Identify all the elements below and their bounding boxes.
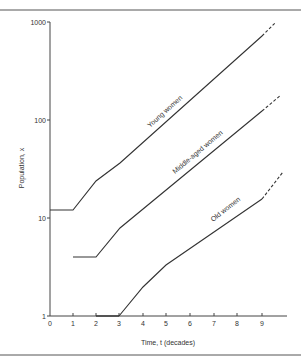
- y-axis-title: Population, x: [18, 147, 26, 188]
- x-tick-3: 3: [117, 320, 121, 327]
- series-young-women: Young women: [50, 22, 276, 210]
- x-tick-6: 6: [188, 320, 192, 327]
- x-tick-7: 7: [212, 320, 216, 327]
- y-tick-100: 100: [34, 117, 46, 124]
- label-old-women: Old women: [209, 195, 241, 222]
- x-tick-8: 8: [235, 320, 239, 327]
- label-middle-aged-women: Middle-aged women: [171, 129, 225, 176]
- series-middle-aged-women: Middle-aged women: [73, 95, 281, 257]
- y-axis: 1000 100 10 1 Population, x: [18, 19, 50, 320]
- population-chart: 1000 100 10 1 Population, x 0 1 2 3 4 5 …: [0, 0, 301, 363]
- label-young-women: Young women: [146, 94, 184, 130]
- y-tick-1: 1: [42, 313, 46, 320]
- x-tick-4: 4: [141, 320, 145, 327]
- x-axis: 0 1 2 3 4 5 6 7 8 9 Time, t (decades): [48, 313, 287, 347]
- x-axis-title: Time, t (decades): [141, 339, 195, 347]
- x-tick-2: 2: [94, 320, 98, 327]
- x-tick-0: 0: [48, 320, 52, 327]
- x-tick-9: 9: [260, 320, 264, 327]
- y-tick-10: 10: [38, 215, 46, 222]
- x-tick-5: 5: [164, 320, 168, 327]
- series-old-women: Old women: [96, 172, 283, 316]
- y-tick-1000: 1000: [30, 19, 46, 26]
- x-tick-1: 1: [71, 320, 75, 327]
